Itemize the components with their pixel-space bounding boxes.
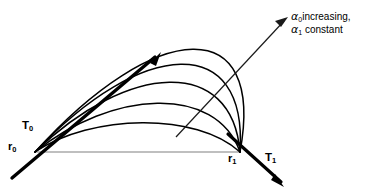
point-label-r1: r1 <box>228 153 236 164</box>
hermite-curve-1 <box>35 123 240 152</box>
hermite-curve-2 <box>35 103 240 152</box>
point-label-r0-sub: 0 <box>12 145 16 154</box>
point-label-r1-sub: 1 <box>232 157 236 166</box>
hermite-curve-3 <box>35 82 240 152</box>
hermite-curve-family <box>35 49 244 152</box>
annotation-line-1: α0increasing, <box>291 11 351 24</box>
hermite-curve-4 <box>35 64 240 152</box>
annotation-label: α0increasing, α1 constant <box>291 11 351 36</box>
alpha-subscript-1: 1 <box>298 29 302 36</box>
annotation-line-2-text: constant <box>305 24 343 35</box>
vector-label-T0-sub: 0 <box>29 124 33 133</box>
vector-label-T1-sub: 1 <box>272 156 276 165</box>
vector-label-T0: T0 <box>22 120 33 132</box>
hermite-curve-figure: r0 r1 T0 T1 α0increasing, α1 constant <box>0 0 378 188</box>
alpha-subscript-0: 0 <box>298 16 302 23</box>
point-label-r0: r0 <box>8 141 16 152</box>
annotation-line-2: α1 constant <box>291 24 351 37</box>
tangent-vector-T0 <box>12 52 161 178</box>
annotation-line-1-text: increasing, <box>302 11 350 22</box>
vector-label-T1-base: T <box>265 151 272 163</box>
vector-label-T1: T1 <box>265 152 276 164</box>
vector-label-T0-base: T <box>22 119 29 131</box>
